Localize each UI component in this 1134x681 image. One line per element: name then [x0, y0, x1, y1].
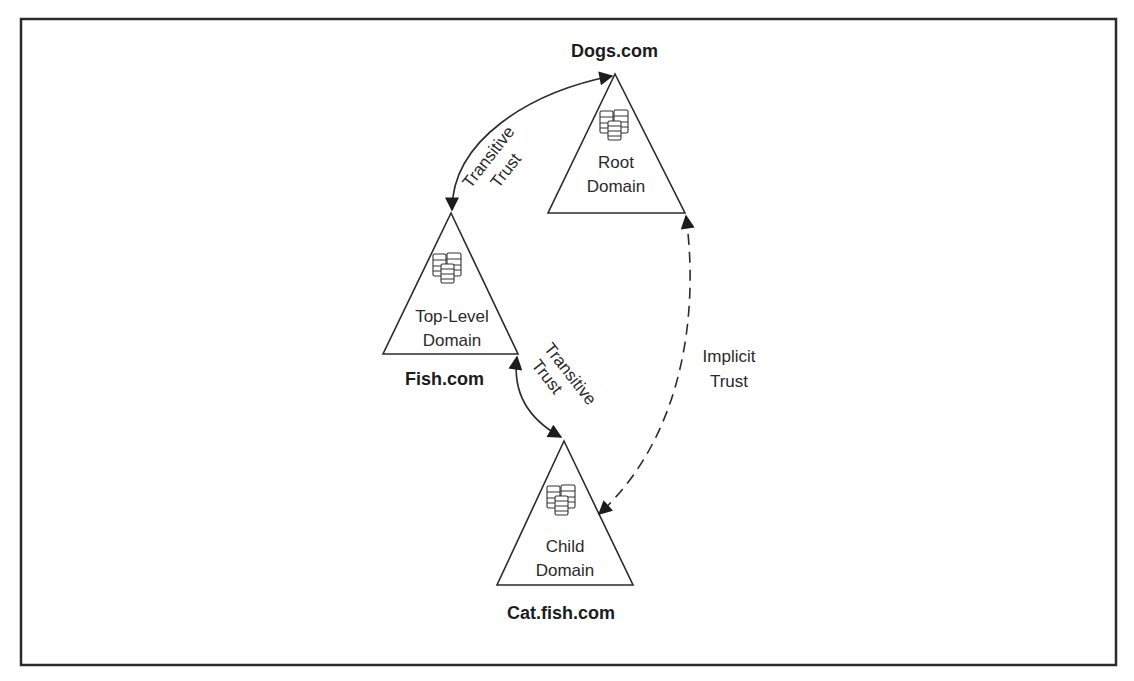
- child-domain-label-line2: Domain: [536, 561, 595, 580]
- top-level-domain-label-line2: Domain: [423, 331, 482, 350]
- implicit-trust-label-line1: Implicit: [703, 347, 756, 366]
- implicit-trust-arrow: [599, 216, 690, 514]
- implicit-trust-label-line2: Trust: [710, 372, 748, 391]
- edge-top-level-child: Transitive Trust: [516, 339, 600, 437]
- child-domain-name: Cat.fish.com: [507, 603, 615, 623]
- root-domain-name: Dogs.com: [571, 41, 658, 61]
- trust-diagram: Dogs.com Root Domain Top-Level Domain Fi…: [0, 0, 1134, 681]
- root-domain-label-line1: Root: [598, 153, 634, 172]
- edge-root-child: Implicit Trust: [599, 216, 756, 514]
- top-level-domain-node: Top-Level Domain Fish.com: [383, 213, 518, 389]
- top-level-domain-label-line1: Top-Level: [415, 307, 489, 326]
- child-domain-label-line1: Child: [546, 537, 585, 556]
- child-domain-node: Child Domain Cat.fish.com: [497, 441, 633, 623]
- root-domain-label-line2: Domain: [587, 177, 646, 196]
- root-domain-node: Dogs.com Root Domain: [548, 41, 685, 213]
- top-level-domain-name: Fish.com: [405, 369, 484, 389]
